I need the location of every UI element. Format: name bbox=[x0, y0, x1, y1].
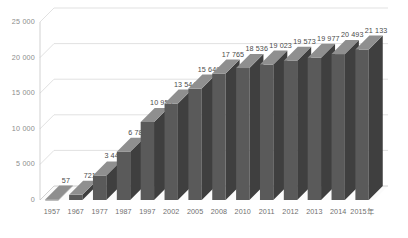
x-axis-tick-label: 1997 bbox=[139, 207, 155, 216]
bar-value-label: 18 536 bbox=[245, 44, 268, 53]
y-axis-tick-label: 0 bbox=[31, 195, 35, 204]
bar-front-face bbox=[284, 61, 297, 200]
x-axis-tick-label: 2013 bbox=[306, 207, 322, 216]
x-axis-tick-label: 1967 bbox=[68, 207, 84, 216]
y-axis-tick-label: 10 000 bbox=[12, 124, 35, 133]
bar-chart: 05 00010 00015 00020 00025 0005719577211… bbox=[0, 0, 408, 238]
bar-front-face bbox=[332, 54, 345, 200]
bar-value-label: 17 765 bbox=[222, 50, 245, 59]
bar-front-face bbox=[236, 68, 249, 200]
bar-front-face bbox=[165, 104, 178, 200]
bar-front-face bbox=[117, 152, 130, 200]
bar-front-face bbox=[212, 74, 225, 200]
x-axis-tick-label: 2011 bbox=[259, 207, 275, 216]
y-axis-tick-label: 15 000 bbox=[12, 88, 35, 97]
x-axis-tick-label: 2005 bbox=[187, 207, 203, 216]
bar-front-face bbox=[69, 195, 82, 200]
bar-value-label: 21 133 bbox=[365, 26, 388, 35]
bar-value-label: 19 573 bbox=[293, 37, 316, 46]
x-axis-tick-label: 2012 bbox=[282, 207, 298, 216]
bar-front-face bbox=[45, 200, 58, 201]
bar-value-label: 19 977 bbox=[317, 34, 340, 43]
chart-canvas: 05 00010 00015 00020 00025 0005719577211… bbox=[0, 0, 408, 238]
x-axis-tick-label: 1957 bbox=[44, 207, 60, 216]
gridline bbox=[40, 8, 388, 22]
bar-front-face bbox=[355, 50, 368, 200]
bar-front-face bbox=[260, 65, 273, 200]
bar-front-face bbox=[141, 122, 154, 200]
x-axis-tick-label: 2015年 bbox=[350, 207, 374, 216]
bar-front-face bbox=[308, 58, 321, 200]
x-axis-tick-label: 2014 bbox=[330, 207, 346, 216]
bar-value-label: 20 493 bbox=[341, 30, 364, 39]
x-axis-tick-label: 1977 bbox=[91, 207, 107, 216]
y-axis-tick-label: 25 000 bbox=[12, 17, 35, 26]
y-axis-tick-label: 5 000 bbox=[16, 159, 35, 168]
bar-side-face bbox=[369, 36, 383, 200]
bar-front-face bbox=[188, 89, 201, 200]
y-axis-tick-label: 20 000 bbox=[12, 53, 35, 62]
x-axis-tick-label: 2008 bbox=[211, 207, 227, 216]
bar-value-label: 19 023 bbox=[269, 41, 292, 50]
bar-front-face bbox=[93, 175, 106, 200]
x-axis-tick-label: 2010 bbox=[235, 207, 251, 216]
x-axis-tick-label: 2002 bbox=[163, 207, 179, 216]
bar-value-label: 57 bbox=[62, 176, 70, 185]
x-axis-tick-label: 1987 bbox=[115, 207, 131, 216]
